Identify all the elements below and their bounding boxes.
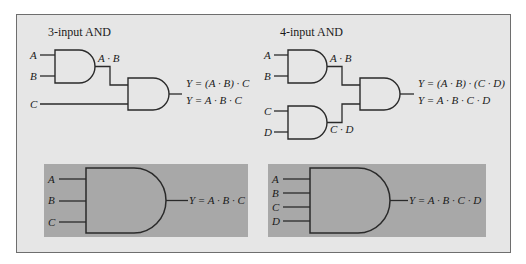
right-diagram-title: 4-input AND [280,25,343,39]
output-equation: Y = A · B · C [189,194,246,206]
input-label-a: A [263,49,271,61]
output-equation-2: Y = A · B · C · D [418,94,490,106]
four-input-and-symbol: A B C D Y = A · B · C · D [268,164,486,237]
input-label-c: C [272,201,280,213]
left-diagram-title: 3-input AND [48,25,111,39]
input-label-c: C [264,105,272,117]
three-input-and-symbol: A B C Y = A · B · C [44,164,248,237]
output-equation: Y = A · B · C · D [409,194,481,206]
input-label-a: A [47,173,55,185]
input-label-b: B [272,187,279,199]
and-gate-3-input [86,168,166,233]
intermediate-label-ab: A · B [97,52,120,64]
input-label-d: D [263,126,272,138]
output-equation-2: Y = A · B · C [186,94,243,106]
and-gate-4-input [310,168,390,233]
input-label-a: A [271,173,279,185]
input-label-a: A [29,49,37,61]
input-label-d: D [271,215,280,227]
output-equation-1: Y = (A · B) · C [186,77,250,90]
input-label-b: B [30,70,37,82]
input-label-b: B [48,194,55,206]
input-label-c: C [30,98,38,110]
input-label-c: C [48,216,56,228]
intermediate-label-cd: C · D [330,123,354,135]
input-label-b: B [264,70,271,82]
and-gate-diagram: 3-input AND A B C A · B Y = (A · B) · C … [0,0,526,264]
intermediate-label-ab: A · B [329,52,352,64]
output-equation-1: Y = (A · B) · (C · D) [418,77,505,90]
